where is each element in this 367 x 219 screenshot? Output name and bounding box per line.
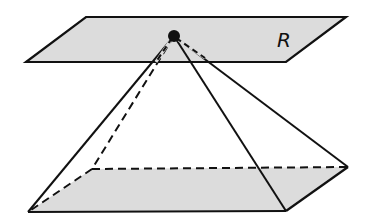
- plane-label: R: [277, 28, 291, 52]
- pyramid-diagram: R: [0, 0, 367, 219]
- base-edge-front: [28, 211, 286, 212]
- pyramid-base: [28, 167, 348, 212]
- apex-point: [168, 30, 180, 42]
